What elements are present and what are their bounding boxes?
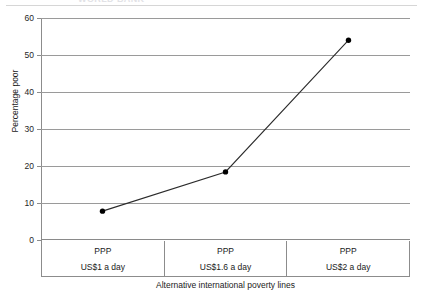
y-tick-label-30: 30 xyxy=(0,124,34,134)
category-2-line1: PPP xyxy=(340,247,357,256)
y-tick-label-0: 0 xyxy=(0,235,34,245)
poverty-line-chart: Percentage poor 0102030405060 PPP US$1 a… xyxy=(0,0,423,297)
category-1-line2: US$1.6 a day xyxy=(200,263,252,272)
data-point-1 xyxy=(223,169,228,174)
series-polyline xyxy=(103,40,349,211)
category-2-line2: US$2 a day xyxy=(326,263,370,272)
y-tick-label-40: 40 xyxy=(0,87,34,97)
category-cell-0: PPP US$1 a day xyxy=(42,241,165,276)
category-1-line1: PPP xyxy=(217,247,234,256)
y-axis-title: Percentage poor xyxy=(10,46,20,156)
category-cell-2: PPP US$2 a day xyxy=(287,241,409,276)
data-point-0 xyxy=(100,208,105,213)
y-tick-label-50: 50 xyxy=(0,50,34,60)
y-tick-label-60: 60 xyxy=(0,13,34,23)
category-cell-1: PPP US$1.6 a day xyxy=(165,241,288,276)
series-markers xyxy=(100,38,351,214)
category-0-line1: PPP xyxy=(94,247,111,256)
x-axis-title: Alternative international poverty lines xyxy=(41,280,410,290)
data-point-2 xyxy=(346,38,351,43)
y-tick-label-10: 10 xyxy=(0,198,34,208)
plot-area xyxy=(41,18,410,240)
category-axis-table: PPP US$1 a day PPP US$1.6 a day PPP US$2… xyxy=(41,241,410,277)
series-line xyxy=(41,18,410,240)
y-tick-label-20: 20 xyxy=(0,161,34,171)
category-0-line2: US$1 a day xyxy=(81,263,125,272)
